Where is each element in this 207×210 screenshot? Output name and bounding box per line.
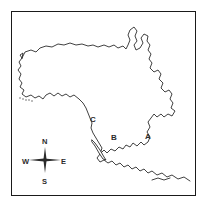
caribbean-islands-path — [152, 178, 170, 180]
compass-west-label: W — [22, 158, 29, 166]
aleutian-island-dot — [28, 99, 29, 100]
region-label-c: C — [90, 116, 96, 124]
aleutian-island-dot — [22, 98, 23, 99]
aleutian-island-dot — [19, 97, 20, 98]
aleutian-island-dot — [25, 99, 26, 100]
region-label-a: A — [145, 133, 151, 141]
region-label-b: B — [111, 134, 117, 142]
map-figure: A B C N S W E — [0, 0, 207, 210]
canada-west-coast-path — [20, 53, 23, 58]
compass-north-label: N — [42, 138, 47, 146]
compass-rose: N S W E — [22, 138, 68, 186]
compass-east-label: E — [61, 158, 66, 166]
aleutian-island-dot — [31, 100, 32, 101]
compass-south-label: S — [42, 178, 47, 186]
